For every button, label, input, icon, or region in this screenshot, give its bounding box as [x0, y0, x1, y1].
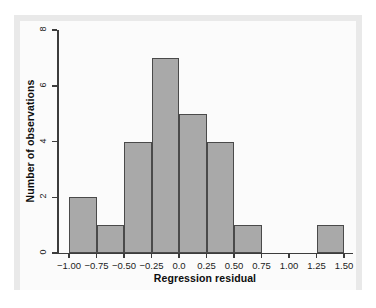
y-axis-tick-label: 8 — [38, 21, 48, 37]
x-axis-tick — [343, 253, 345, 258]
y-axis-tick-label: 4 — [38, 133, 48, 149]
histogram-bar — [152, 58, 180, 253]
x-axis-tick — [151, 253, 153, 258]
histogram-figure: 02468 −1.00−0.75−0.50−0.250.00.250.500.7… — [0, 0, 376, 308]
y-axis-tick — [52, 252, 57, 254]
y-axis-title: Number of observations — [24, 51, 36, 231]
x-axis-title: Regression residual — [57, 272, 353, 284]
x-axis-tick — [123, 253, 125, 258]
y-axis-tick — [52, 29, 57, 31]
x-axis-tick — [261, 253, 263, 258]
y-axis-line — [57, 30, 59, 254]
histogram-bar — [124, 142, 152, 254]
x-axis-tick — [68, 253, 70, 258]
y-axis-tick-label: 2 — [38, 188, 48, 204]
y-axis-tick — [52, 141, 57, 143]
y-axis-tick-label: 6 — [38, 77, 48, 93]
histogram-bar — [207, 142, 235, 254]
histogram-bar — [97, 225, 125, 253]
x-axis-tick — [233, 253, 235, 258]
x-axis-tick — [288, 253, 290, 258]
x-axis-tick — [178, 253, 180, 258]
x-axis-tick — [316, 253, 318, 258]
x-axis-tick-label: 1.50 — [324, 260, 364, 271]
y-axis-tick — [52, 197, 57, 199]
histogram-bar — [234, 225, 262, 253]
histogram-bar — [69, 197, 97, 253]
histogram-bar — [317, 225, 345, 253]
y-axis-tick — [52, 85, 57, 87]
histogram-bar — [179, 114, 207, 253]
y-axis-tick-label: 0 — [38, 244, 48, 260]
plot-area: 02468 −1.00−0.75−0.50−0.250.00.250.500.7… — [0, 0, 376, 308]
x-axis-tick — [206, 253, 208, 258]
x-axis-tick — [96, 253, 98, 258]
